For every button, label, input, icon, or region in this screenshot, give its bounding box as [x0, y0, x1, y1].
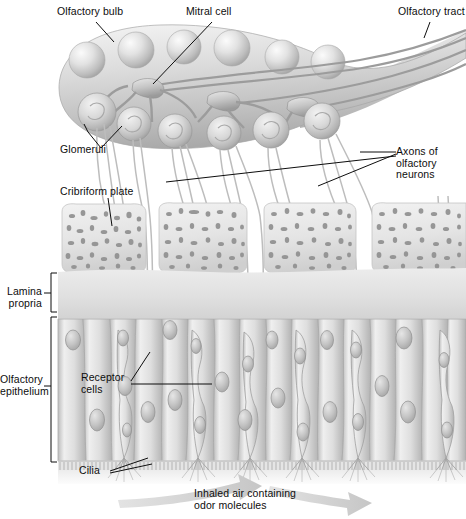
nucleus [442, 422, 453, 438]
cribriform-plate-group [62, 203, 466, 273]
label-receptor-cells: Receptor cells [81, 372, 124, 395]
olfactory-system-diagram [0, 0, 466, 519]
nucleus [271, 388, 285, 408]
cribriform-plate-block [264, 203, 356, 273]
nucleus [295, 348, 306, 364]
label-axons-of-olfactory-neurons: Axons of olfactory neurons [396, 146, 438, 181]
nucleus [168, 390, 182, 411]
nucleus [123, 423, 132, 437]
nucleus [375, 376, 389, 397]
bulb-sphere [167, 30, 201, 64]
lamina-propria-layer [58, 268, 466, 320]
nucleus [141, 402, 155, 423]
nucleus [163, 321, 177, 340]
nucleus [353, 414, 364, 431]
glomerulus [207, 116, 241, 150]
nucleus [266, 331, 278, 349]
label-mitral-cell: Mitral cell [186, 6, 231, 18]
label-cribriform-plate: Cribriform plate [60, 186, 133, 198]
label-olfactory-bulb: Olfactory bulb [57, 6, 123, 18]
nucleus [297, 423, 309, 441]
nucleus [90, 409, 105, 431]
cribriform-plate-block [159, 203, 247, 273]
glomerulus [78, 93, 116, 131]
figure-canvas: Olfactory bulb Mitral cell Olfactory tra… [0, 0, 466, 519]
bulb-sphere [118, 32, 154, 68]
epithelial-cell [134, 319, 163, 461]
nucleus [66, 330, 81, 350]
label-olfactory-epithelium: Olfactory epithelium [0, 374, 42, 397]
nucleus [238, 410, 252, 431]
nucleus [396, 327, 412, 349]
leader-axons-b [318, 154, 396, 186]
label-glomeruli: Glomeruli [60, 144, 106, 156]
nucleus [321, 331, 334, 350]
olfactory-bulb-group [59, 25, 466, 150]
nucleus [191, 339, 201, 354]
glomerulus [158, 114, 192, 148]
glomerulus [253, 112, 289, 148]
label-lamina-propria: Lamina propria [0, 286, 42, 309]
bulb-sphere [69, 42, 105, 78]
nucleus [323, 402, 337, 423]
cribriform-plate-block [62, 204, 146, 273]
bulb-sphere [214, 30, 250, 66]
nucleus [243, 356, 254, 372]
nucleus [215, 372, 229, 392]
cribriform-plate-block [372, 203, 466, 273]
olfactory-epithelium-bracket [51, 317, 57, 462]
glomerulus [304, 103, 340, 139]
nucleus [195, 417, 206, 434]
nucleus [118, 330, 129, 346]
bracket-group [44, 273, 57, 462]
nucleus [351, 342, 362, 358]
glomerulus [117, 107, 151, 141]
label-inhaled-air: Inhaled air containing odor molecules [194, 488, 296, 511]
nucleus [401, 401, 416, 423]
nucleus [439, 353, 449, 368]
leader-olfactory-tract [424, 22, 430, 38]
label-olfactory-tract: Olfactory tract [398, 6, 465, 18]
label-cilia: Cilia [79, 465, 100, 477]
leader-axons-c [166, 156, 396, 182]
lamina-propria-bracket [51, 273, 57, 312]
